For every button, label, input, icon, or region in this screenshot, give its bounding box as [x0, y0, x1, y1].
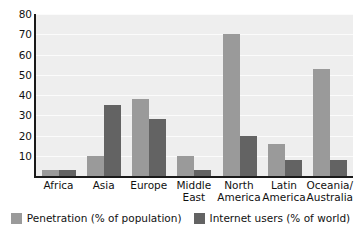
plot-area [36, 14, 353, 176]
bar[interactable] [87, 156, 104, 176]
bar[interactable] [285, 160, 302, 176]
bar-group [172, 14, 217, 176]
y-tick-70: 70 [0, 29, 32, 39]
x-tick-label-line: North [216, 180, 261, 192]
bar[interactable] [313, 69, 330, 176]
y-tick-50: 50 [0, 70, 32, 80]
x-tick-label-line: Australia [307, 192, 353, 204]
x-tick-label-line: Africa [36, 180, 81, 192]
bar[interactable] [177, 156, 194, 176]
x-tick-label: Africa [36, 180, 81, 203]
x-tick-label-line: America [261, 192, 306, 204]
x-tick-label-line: America [216, 192, 261, 204]
bar-group [308, 14, 353, 176]
x-tick-label: Europe [126, 180, 171, 203]
x-tick-label-line: Middle [171, 180, 216, 192]
y-tick-60: 60 [0, 50, 32, 60]
x-tick-label: NorthAmerica [216, 180, 261, 203]
x-tick-label-line: Europe [126, 180, 171, 192]
bar[interactable] [104, 105, 121, 176]
x-tick-label-line: Latin [261, 180, 306, 192]
x-tick-label: LatinAmerica [261, 180, 306, 203]
x-axis-tick-labels: AfricaAsiaEuropeMiddleEastNorthAmericaLa… [36, 180, 353, 203]
bar-group [36, 14, 81, 176]
bar[interactable] [149, 119, 166, 176]
y-tick-40: 40 [0, 90, 32, 100]
y-axis-tick-labels: 8070605040302010 [0, 0, 32, 177]
bar-group [217, 14, 262, 176]
legend-label: Penetration (% of population) [27, 212, 182, 224]
bar[interactable] [268, 144, 285, 176]
chart-legend: Penetration (% of population)Internet us… [0, 212, 361, 224]
x-tick-label: Oceania/Australia [307, 180, 353, 203]
legend-item[interactable]: Penetration (% of population) [11, 212, 182, 224]
x-tick-label: MiddleEast [171, 180, 216, 203]
bar[interactable] [330, 160, 347, 176]
bar-group [127, 14, 172, 176]
x-axis-line [34, 176, 353, 178]
legend-item[interactable]: Internet users (% of world) [194, 212, 351, 224]
bar[interactable] [132, 99, 149, 176]
x-tick-label: Asia [81, 180, 126, 203]
bar[interactable] [223, 34, 240, 176]
bar-chart: 8070605040302010 AfricaAsiaEuropeMiddleE… [0, 0, 361, 241]
y-tick-10: 10 [0, 151, 32, 161]
legend-swatch [194, 213, 205, 224]
legend-label: Internet users (% of world) [210, 212, 351, 224]
x-tick-label-line: Oceania/ [307, 180, 353, 192]
x-tick-label-line: Asia [81, 180, 126, 192]
bar[interactable] [240, 136, 257, 177]
bar-group [81, 14, 126, 176]
bar-groups [36, 14, 353, 176]
bar-group [262, 14, 307, 176]
x-tick-label-line: East [171, 192, 216, 204]
legend-swatch [11, 213, 22, 224]
y-tick-30: 30 [0, 110, 32, 120]
y-tick-80: 80 [0, 9, 32, 19]
y-tick-20: 20 [0, 131, 32, 141]
